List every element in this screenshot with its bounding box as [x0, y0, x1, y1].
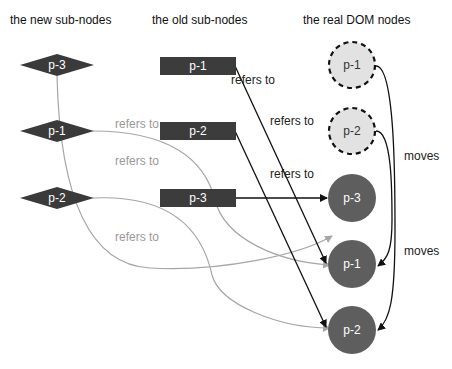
label-old-refers-2: refers to: [270, 114, 314, 128]
real-node-label: p-3: [343, 191, 361, 205]
label-moves-2: moves: [404, 244, 439, 258]
real-node-label: p-1: [343, 257, 361, 271]
old-node-p1: p-1: [160, 57, 236, 75]
real-node-p2: p-2: [328, 306, 376, 354]
label-old-refers-3: refers to: [270, 167, 314, 181]
header-new-sub-nodes: the new sub-nodes: [10, 13, 111, 27]
edge-new-p2-to-real-p2: [93, 198, 330, 328]
real-node-p1: p-1: [328, 240, 376, 288]
old-to-real-edges: [235, 66, 327, 327]
real-node-p3: p-3: [328, 174, 376, 222]
new-node-label: p-1: [48, 124, 66, 138]
edge-old-p2-to-real-p2: [235, 131, 326, 327]
label-new-refers-1: refers to: [115, 117, 159, 131]
moves-edges: [376, 66, 395, 330]
real-node-label: p-2: [343, 124, 361, 138]
label-new-refers-2: refers to: [115, 154, 159, 168]
old-node-label: p-2: [189, 124, 207, 138]
label-moves-1: moves: [404, 149, 439, 163]
old-node-label: p-1: [189, 59, 207, 73]
new-node-label: p-3: [48, 58, 66, 72]
new-node-p2: p-2: [20, 187, 94, 209]
label-new-refers-3: refers to: [115, 230, 159, 244]
new-node-label: p-2: [48, 191, 66, 205]
header-real-dom-nodes: the real DOM nodes: [303, 13, 410, 27]
header-old-sub-nodes: the old sub-nodes: [152, 13, 247, 27]
diagram-canvas: the new sub-nodes the old sub-nodes the …: [0, 0, 452, 369]
old-node-p2: p-2: [160, 122, 236, 140]
new-node-p1: p-1: [20, 120, 94, 142]
label-old-refers-1: refers to: [231, 73, 275, 87]
edge-old-p1-to-real-p1: [235, 66, 326, 263]
real-node-p2-placeholder: p-2: [329, 108, 375, 154]
old-node-p3: p-3: [160, 189, 236, 207]
edge-move-p2: [376, 131, 392, 266]
old-node-label: p-3: [189, 191, 207, 205]
real-node-p1-placeholder: p-1: [329, 42, 375, 88]
real-node-label: p-2: [343, 323, 361, 337]
new-node-p3: p-3: [20, 54, 94, 76]
real-node-label: p-1: [343, 58, 361, 72]
